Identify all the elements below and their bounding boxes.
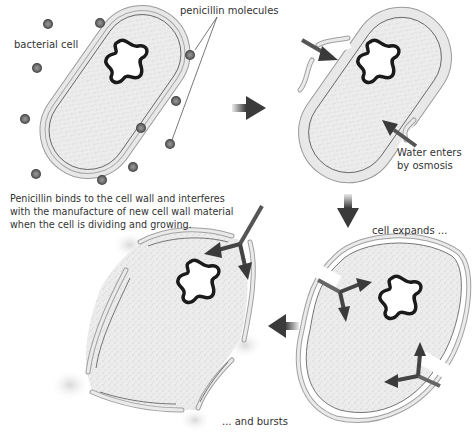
label-cell-expands: cell expands ... — [372, 224, 447, 237]
label-bacterial-cell: bacterial cell — [14, 38, 78, 51]
stage-4-cell-bursts — [50, 206, 263, 432]
stage-3-cell-expands — [298, 236, 468, 421]
label-water-enters-line1: Water enters — [397, 146, 462, 159]
arrow-down-icon — [337, 194, 359, 228]
caption: Penicillin binds to the cell wall and in… — [10, 192, 234, 231]
label-and-bursts: ... and bursts — [222, 415, 288, 428]
arrow-left-icon — [268, 314, 299, 338]
caption-line-1: Penicillin binds to the cell wall and in… — [10, 192, 234, 205]
label-penicillin-molecules: penicillin molecules — [180, 4, 279, 17]
arrow-right-icon — [232, 96, 266, 120]
label-water-enters-line2: by osmosis — [397, 159, 453, 172]
stage-1-intact-cell — [20, 0, 217, 197]
caption-line-2: with the manufacture of new cell wall ma… — [10, 205, 234, 218]
caption-line-3: when the cell is dividing and growing. — [10, 218, 234, 231]
